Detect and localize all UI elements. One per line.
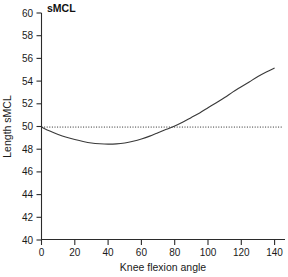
smcl-length-curve [42,68,275,144]
y-axis-title: Length sMCL [1,95,13,158]
y-axis-tick-labels: 60 58 56 54 52 50 48 46 44 42 40 [22,8,34,246]
x-axis-ticks [42,240,275,246]
x-tick-label: 20 [69,247,81,258]
y-tick-label: 50 [22,121,34,132]
y-tick-label: 46 [22,166,34,177]
y-tick-label: 44 [22,189,34,200]
x-tick-label: 60 [136,247,148,258]
chart-figure: sMCL 60 58 56 54 52 50 48 4 [0,0,288,277]
y-axis-ticks [37,13,42,240]
y-tick-label: 48 [22,144,34,155]
x-axis-title: Knee flexion angle [120,261,207,273]
x-axis-tick-labels: 0 20 40 60 80 100 120 140 [39,247,284,258]
x-tick-label: 80 [169,247,181,258]
y-tick-label: 52 [22,98,34,109]
y-tick-label: 40 [22,235,34,246]
x-tick-label: 40 [103,247,115,258]
y-tick-label: 58 [22,30,34,41]
chart-plot-area: sMCL 60 58 56 54 52 50 48 4 [0,0,288,277]
y-tick-label: 56 [22,53,34,64]
x-tick-label: 100 [200,247,217,258]
y-tick-label: 60 [22,8,34,19]
y-tick-label: 42 [22,212,34,223]
x-tick-label: 120 [233,247,250,258]
y-tick-label: 54 [22,76,34,87]
x-tick-label: 140 [266,247,283,258]
x-tick-label: 0 [39,247,45,258]
chart-title: sMCL [47,2,76,14]
